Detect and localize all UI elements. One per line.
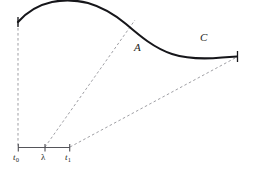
axis-label-lambda: λ <box>41 153 45 162</box>
axis-label-t1-sub: 1 <box>68 156 71 163</box>
figure-canvas: t0 λ t1 A C <box>0 0 259 188</box>
curve-diagram-svg <box>0 0 259 188</box>
chord-lambda-to-curve-line <box>45 20 135 147</box>
axis-label-t0: t0 <box>13 153 19 162</box>
axis-label-lambda-base: λ <box>41 152 45 162</box>
chord-t1-to-endpoint-line <box>70 57 237 147</box>
region-label-a: A <box>134 42 141 53</box>
axis-label-t0-sub: 0 <box>16 156 19 163</box>
time-axis-group <box>18 144 70 152</box>
axis-label-t1: t1 <box>65 153 71 162</box>
sigmoid-curve <box>18 0 237 58</box>
region-label-c: C <box>200 32 207 43</box>
